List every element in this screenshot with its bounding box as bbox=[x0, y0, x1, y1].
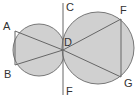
label-d: D bbox=[64, 37, 72, 48]
label-c: C bbox=[66, 2, 74, 13]
left-circle bbox=[13, 24, 65, 76]
right-circle bbox=[62, 12, 134, 84]
geometry-figure: A B C D F F G bbox=[0, 0, 139, 99]
label-g: G bbox=[124, 78, 133, 89]
label-f-bottom: F bbox=[66, 86, 73, 97]
label-f-top: F bbox=[120, 5, 127, 16]
label-a: A bbox=[3, 21, 10, 32]
label-b: B bbox=[4, 69, 11, 80]
